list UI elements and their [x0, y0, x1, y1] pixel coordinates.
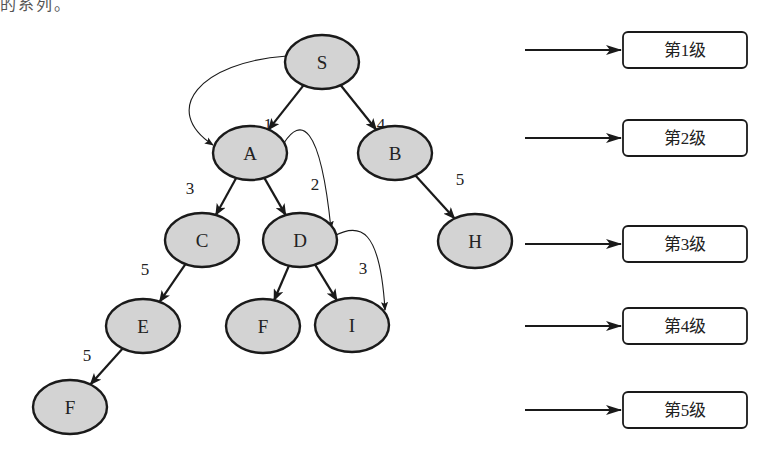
node-A: A [213, 126, 287, 180]
node-E: E [106, 299, 180, 353]
tree-diagram: 14325535 SABCDHEFIF 第1级第2级第3级第4级第5级 [0, 0, 784, 459]
level-indicator-5: 第5级 [525, 392, 747, 428]
node-D: D [263, 213, 337, 267]
node-label: I [349, 315, 355, 336]
node-B: B [358, 126, 432, 180]
tree-nodes: SABCDHEFIF [33, 35, 512, 434]
node-label: F [65, 397, 76, 418]
edge-weight-label: 2 [311, 175, 320, 194]
node-label: A [243, 143, 257, 164]
edge-A-D [264, 178, 285, 215]
edge-D-F1 [274, 266, 289, 300]
level-label: 第3级 [664, 235, 707, 254]
node-I: I [315, 298, 389, 352]
edge-weight-label: 3 [186, 179, 195, 198]
node-label: S [317, 52, 328, 73]
node-label: D [293, 230, 307, 251]
level-indicator-4: 第4级 [525, 308, 747, 344]
edge-B-H [415, 175, 454, 218]
node-F2: F [33, 380, 107, 434]
node-label: H [468, 231, 482, 252]
edge-C-E [160, 264, 186, 302]
level-label: 第5级 [664, 401, 707, 420]
node-C: C [165, 213, 239, 267]
level-indicator-2: 第2级 [525, 120, 747, 156]
edge-A-C [216, 178, 236, 215]
level-label: 第1级 [664, 41, 707, 60]
level-indicators: 第1级第2级第3级第4级第5级 [525, 32, 747, 428]
level-label: 第2级 [664, 129, 707, 148]
level-indicator-1: 第1级 [525, 32, 747, 68]
node-F1: F [226, 299, 300, 353]
level-indicator-3: 第3级 [525, 226, 747, 262]
edge-S-B [341, 85, 377, 129]
node-label: E [137, 316, 149, 337]
node-label: F [258, 316, 269, 337]
node-H: H [438, 214, 512, 268]
edge-E-F2 [90, 349, 122, 385]
edge-weight-label: 3 [359, 259, 368, 278]
edge-weight-label: 5 [456, 170, 465, 189]
edge-weight-label: 5 [83, 346, 92, 365]
node-label: C [196, 230, 209, 251]
edge-weight-label: 5 [141, 260, 150, 279]
node-label: B [389, 143, 402, 164]
node-S: S [285, 35, 359, 89]
edge-S-A [269, 85, 304, 129]
edge-D-I [315, 265, 337, 301]
level-label: 第4级 [664, 317, 707, 336]
